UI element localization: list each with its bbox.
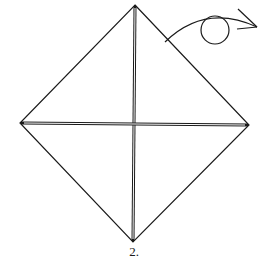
crease-horizontal: [21, 123, 248, 125]
turn-over-arrow-icon: [165, 9, 257, 44]
origami-diagram: [0, 0, 267, 271]
step-number: 2.: [122, 244, 146, 260]
